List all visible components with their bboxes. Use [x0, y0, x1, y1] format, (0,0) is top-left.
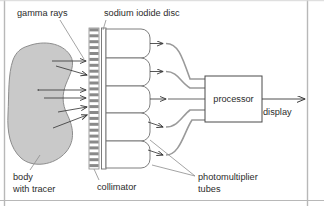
photomultiplier-tube: [106, 29, 150, 58]
signal-cables: [166, 44, 205, 156]
gamma-rays-label: gamma rays: [17, 8, 68, 18]
body-label-line1: body: [13, 172, 33, 182]
collimator: [89, 28, 99, 169]
processor-label: processor: [213, 94, 253, 104]
photomultiplier-tube: [106, 86, 150, 113]
body-label-line2: with tracer: [12, 184, 55, 194]
photomultiplier-label-line1: photomultiplier: [198, 172, 258, 182]
diagram-canvas: processor display gamma rays sodium iodi…: [0, 0, 324, 206]
photomultiplier-tube: [106, 58, 150, 86]
leader-collimator: [94, 169, 99, 180]
sodium-iodide-disc: [102, 28, 107, 169]
tube-output-arrows: [148, 44, 166, 156]
photomultiplier-tube: [106, 141, 150, 168]
gamma-camera-diagram: processor display gamma rays sodium iodi…: [0, 0, 324, 206]
tracer-dot: [37, 89, 39, 91]
sodium-iodide-disc-label: sodium iodide disc: [104, 8, 180, 18]
photomultiplier-tubes: [106, 29, 150, 168]
photomultiplier-label-line2: tubes: [198, 184, 221, 194]
photomultiplier-tube: [106, 113, 150, 141]
display-label: display: [263, 107, 292, 117]
collimator-label: collimator: [97, 182, 136, 192]
